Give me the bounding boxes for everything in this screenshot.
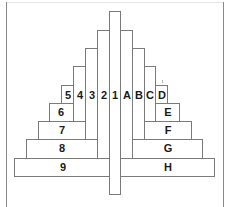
label-A: A (121, 89, 133, 101)
frame-left-border (6, 2, 7, 207)
label-C: C (144, 89, 156, 101)
label-D: D (156, 89, 168, 101)
frame-top-border (6, 2, 223, 3)
frame-right-border (223, 2, 224, 207)
label-5: 5 (62, 89, 74, 101)
label-E: E (156, 106, 180, 118)
tick-mark (162, 80, 163, 83)
label-6: 6 (49, 106, 73, 118)
label-8: 8 (50, 142, 74, 154)
label-9: 9 (51, 161, 75, 173)
label-G: G (156, 142, 180, 154)
label-4: 4 (74, 89, 86, 101)
label-1: 1 (109, 89, 121, 101)
label-F: F (156, 124, 180, 136)
center-column-bar-1 (109, 11, 121, 195)
label-7: 7 (50, 124, 74, 136)
label-H: H (156, 161, 180, 173)
label-3: 3 (86, 89, 98, 101)
